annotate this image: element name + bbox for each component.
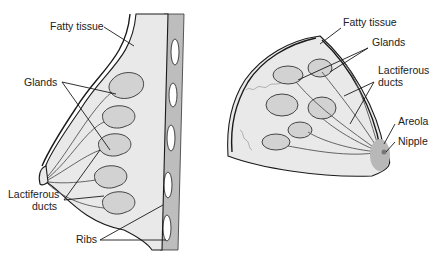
label-nipple: Nipple	[398, 135, 428, 147]
nipple-right	[382, 150, 387, 155]
nipple-left	[39, 166, 48, 185]
label-ribs: Ribs	[76, 233, 97, 245]
breast-anatomy-diagram: Fatty tissue Glands Lactiferous ducts Ri…	[0, 0, 436, 255]
areola-right	[370, 139, 390, 171]
label-glands-left: Glands	[24, 76, 57, 88]
label-fatty-tissue-left: Fatty tissue	[50, 20, 104, 32]
label-lactiferous-left-1: Lactiferous	[8, 188, 59, 200]
right-frontal-view: Fatty tissue Glands Lactiferous ducts Ar…	[228, 16, 430, 176]
label-areola: Areola	[398, 115, 429, 127]
label-lactiferous-left-2: ducts	[32, 200, 57, 212]
left-sagittal-view: Fatty tissue Glands Lactiferous ducts Ri…	[8, 14, 184, 250]
label-glands-right: Glands	[372, 36, 405, 48]
label-fatty-tissue-right: Fatty tissue	[343, 16, 397, 28]
breast-profile-left	[45, 14, 169, 250]
label-lactiferous-right-2: ducts	[378, 76, 403, 88]
label-lactiferous-right-1: Lactiferous	[378, 64, 429, 76]
